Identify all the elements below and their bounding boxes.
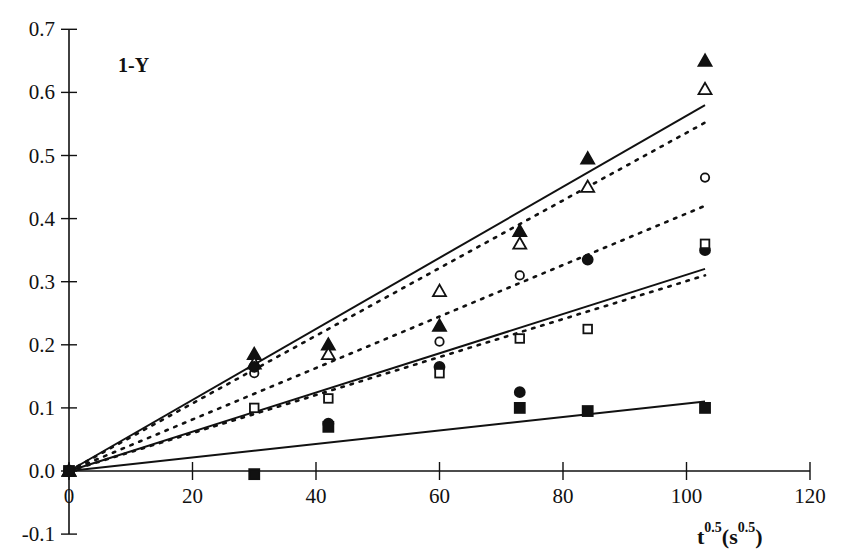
y-tick-label: 0.0: [29, 459, 55, 483]
x-axis-label-part: (s: [722, 524, 738, 549]
marker-open-triangle: [581, 181, 594, 192]
marker-filled-square: [515, 403, 525, 413]
marker-filled-triangle: [699, 54, 712, 65]
marker-open-square: [515, 334, 524, 343]
marker-filled-triangle: [433, 319, 446, 330]
y-tick-label: -0.1: [22, 522, 55, 546]
y-tick-label: 0.6: [29, 80, 55, 104]
marker-open-square: [324, 394, 333, 403]
x-axis-label-part: 0.5: [704, 520, 722, 535]
x-tick-label: 20: [182, 484, 203, 508]
marker-filled-square: [583, 406, 593, 416]
x-axis-label-part: 0.5: [738, 520, 756, 535]
fit-line-open-circle: [69, 206, 705, 471]
axes: 0.70.60.50.40.30.20.10.0-0.1020406080100…: [22, 17, 826, 546]
y-tick-label: 0.3: [29, 270, 55, 294]
x-tick-label: 100: [671, 484, 703, 508]
fit-line-open-triangle: [69, 123, 705, 471]
fit-line-filled-circle: [69, 269, 705, 471]
marker-open-circle: [701, 173, 709, 181]
y-tick-label: 0.1: [29, 396, 55, 420]
marker-open-square: [701, 240, 710, 249]
marker-filled-square: [700, 403, 710, 413]
marker-open-square: [583, 325, 592, 334]
x-axis-label: t0.5(s0.5): [697, 520, 763, 549]
y-tick-label: 0.5: [29, 144, 55, 168]
marker-filled-circle: [515, 387, 525, 397]
x-tick-label: 40: [306, 484, 327, 508]
marker-filled-triangle: [581, 152, 594, 163]
x-axis-label-part: ): [755, 524, 762, 549]
fit-line-filled-square: [69, 401, 705, 471]
data-points: [63, 54, 712, 479]
fit-lines: [69, 105, 705, 471]
y-annotation: 1-Y: [118, 54, 150, 76]
marker-open-circle: [516, 271, 524, 279]
y-tick-label: 0.7: [29, 17, 55, 41]
y-tick-label: 0.4: [29, 207, 56, 231]
marker-open-triangle: [513, 237, 526, 248]
marker-filled-square: [249, 469, 259, 479]
marker-filled-square: [323, 422, 333, 432]
scatter-plot: 0.70.60.50.40.30.20.10.0-0.1020406080100…: [0, 0, 860, 558]
x-tick-label: 60: [429, 484, 450, 508]
fit-line-filled-triangle: [69, 105, 705, 471]
x-axis-label-text: t0.5(s0.5): [697, 520, 763, 549]
chart-container: 0.70.60.50.40.30.20.10.0-0.1020406080100…: [0, 0, 860, 558]
marker-open-square: [435, 369, 444, 378]
marker-open-triangle: [433, 285, 446, 296]
marker-filled-circle: [249, 362, 259, 372]
x-tick-label: 0: [64, 484, 75, 508]
marker-open-circle: [435, 337, 443, 345]
x-tick-label: 80: [553, 484, 574, 508]
marker-open-triangle: [699, 83, 712, 94]
y-tick-label: 0.2: [29, 333, 55, 357]
x-tick-label: 120: [794, 484, 826, 508]
marker-open-square: [250, 404, 259, 413]
marker-filled-circle: [583, 255, 593, 265]
marker-filled-square: [64, 466, 74, 476]
marker-filled-triangle: [513, 225, 526, 236]
